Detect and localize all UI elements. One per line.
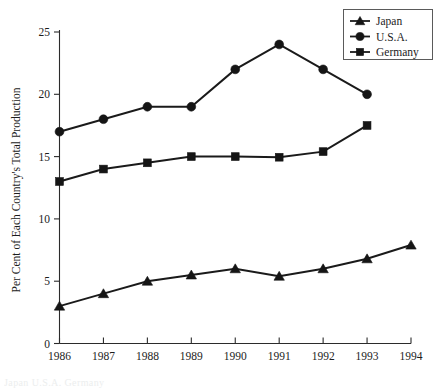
series-japan (54, 240, 416, 310)
series-germany (56, 122, 371, 186)
marker-circle (143, 102, 152, 111)
chart-legend[interactable]: JapanU.S.A.Germany (344, 10, 433, 60)
x-tick-label: 1987 (92, 350, 115, 362)
x-tick-label: 1986 (48, 350, 71, 362)
y-tick-label: 15 (39, 151, 51, 163)
marker-circle (356, 32, 364, 40)
legend-label: U.S.A. (376, 31, 408, 43)
y-axis-ticks: 0510152025 (39, 26, 60, 350)
x-tick-label: 1990 (224, 350, 247, 362)
series-line (60, 245, 412, 306)
marker-triangle (406, 240, 416, 249)
marker-square (56, 178, 64, 186)
x-tick-label: 1994 (400, 350, 423, 362)
series-layer (54, 40, 416, 310)
marker-circle (363, 90, 372, 99)
series-u-s-a- (55, 40, 371, 136)
legend-label: Germany (376, 46, 419, 59)
x-tick-label: 1991 (268, 350, 291, 362)
marker-circle (55, 127, 64, 136)
figure-canvas: Per Cent of Each Country's Total Product… (0, 0, 439, 388)
marker-square (231, 153, 239, 161)
y-tick-label: 5 (44, 275, 50, 287)
y-tick-label: 25 (39, 26, 51, 38)
marker-square (363, 122, 371, 130)
marker-square (356, 48, 363, 55)
y-tick-label: 20 (39, 88, 51, 100)
x-tick-label: 1988 (136, 350, 159, 362)
x-tick-label: 1989 (180, 350, 203, 362)
y-tick-label: 10 (39, 213, 51, 225)
y-tick-label: 0 (44, 338, 50, 350)
legend-label: Japan (376, 15, 402, 28)
marker-circle (231, 65, 240, 74)
marker-square (187, 153, 195, 161)
x-tick-label: 1992 (312, 350, 335, 362)
y-axis-title: Per Cent of Each Country's Total Product… (10, 87, 23, 292)
x-tick-label: 1993 (356, 350, 379, 362)
line-chart: Per Cent of Each Country's Total Product… (0, 0, 439, 388)
marker-square (100, 165, 108, 173)
marker-square (275, 153, 283, 161)
marker-square (319, 148, 327, 156)
x-axis-ticks: 198619871988198919901991199219931994 (48, 338, 423, 363)
marker-circle (99, 115, 108, 124)
marker-circle (319, 65, 328, 74)
marker-square (143, 159, 151, 167)
marker-circle (275, 40, 284, 49)
footer-ghost-text: Japan U.S.A. Germany (4, 377, 204, 388)
marker-circle (187, 102, 196, 111)
